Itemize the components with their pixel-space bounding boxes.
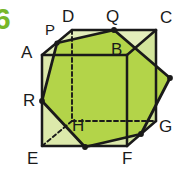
vertex-label-A: A [21, 44, 32, 61]
point-marker-CG [167, 75, 173, 81]
cube-cross-section-drawing [0, 0, 183, 174]
point-marker-FE [82, 144, 88, 150]
section-label-R: R [23, 92, 35, 109]
vertex-label-F: F [122, 150, 132, 167]
section-label-P: P [45, 22, 55, 37]
vertex-label-D: D [62, 8, 74, 25]
vertex-label-G: G [159, 118, 172, 135]
vertex-label-H: H [72, 117, 84, 134]
exercise-number: 6 [0, 4, 11, 34]
vertex-label-C: C [160, 9, 172, 26]
vertex-label-B: B [111, 41, 122, 58]
point-marker-Q [111, 27, 117, 33]
point-marker-P [54, 40, 59, 45]
point-marker-GF [138, 131, 144, 137]
vertex-label-E: E [27, 150, 38, 167]
point-marker-R [39, 98, 45, 104]
geometry-figure: 6 A B C D E F G H P Q R [0, 0, 183, 174]
section-label-Q: Q [106, 8, 119, 25]
